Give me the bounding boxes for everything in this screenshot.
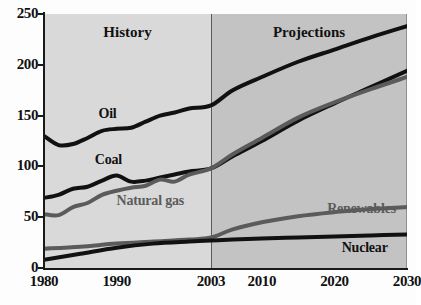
history-caption: History xyxy=(103,24,151,41)
projections-caption: Projections xyxy=(273,24,345,41)
x-axis-label-1980: 1980 xyxy=(30,274,58,289)
x-axis-label-1990: 1990 xyxy=(102,274,130,289)
x-axis-line xyxy=(43,268,408,270)
series-label-renewables: Renewables xyxy=(327,202,396,216)
plot-area xyxy=(44,14,407,268)
y-tick-50 xyxy=(38,216,43,218)
series-label-oil: Oil xyxy=(98,107,116,121)
y-axis-label-100: 100 xyxy=(0,158,38,173)
x-axis-label-2020: 2020 xyxy=(320,274,348,289)
series-label-coal: Coal xyxy=(95,153,122,167)
series-line-oil xyxy=(44,26,407,145)
y-axis-label-150: 150 xyxy=(0,108,38,123)
x-axis-label-2030: 2030 xyxy=(393,274,421,289)
series-label-natural-gas: Natural gas xyxy=(117,194,184,208)
series-lines xyxy=(44,14,407,268)
series-label-nuclear: Nuclear xyxy=(342,241,388,255)
y-tick-250 xyxy=(38,13,43,15)
x-axis-label-2003: 2003 xyxy=(197,274,225,289)
y-tick-100 xyxy=(38,165,43,167)
series-line-natural-gas xyxy=(44,77,407,216)
y-axis-label-250: 250 xyxy=(0,6,38,21)
y-axis-label-200: 200 xyxy=(0,57,38,72)
y-tick-0 xyxy=(38,267,43,269)
y-tick-200 xyxy=(38,64,43,66)
y-tick-150 xyxy=(38,115,43,117)
x-axis-label-2010: 2010 xyxy=(248,274,276,289)
y-axis-label-50: 50 xyxy=(0,209,38,224)
y-axis-line xyxy=(43,12,45,270)
